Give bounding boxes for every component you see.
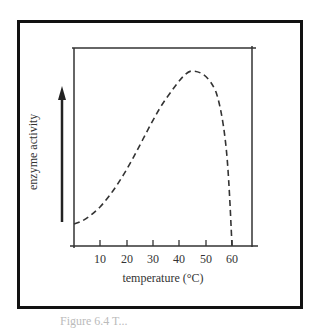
x-axis-ticks	[100, 240, 232, 246]
enzyme-activity-curve	[74, 71, 232, 246]
x-axis-label: temperature (°C)	[122, 271, 203, 286]
figure-caption: Figure 6.4 T...	[60, 314, 128, 329]
x-tick-label: 20	[121, 252, 133, 267]
x-tick-label: 50	[200, 252, 212, 267]
x-tick-label: 10	[94, 252, 106, 267]
x-tick-label: 60	[226, 252, 238, 267]
x-tick-label: 30	[147, 252, 159, 267]
y-arrow-icon	[58, 86, 66, 222]
y-axis-label: enzyme activity	[26, 114, 41, 190]
x-tick-label: 40	[173, 252, 185, 267]
